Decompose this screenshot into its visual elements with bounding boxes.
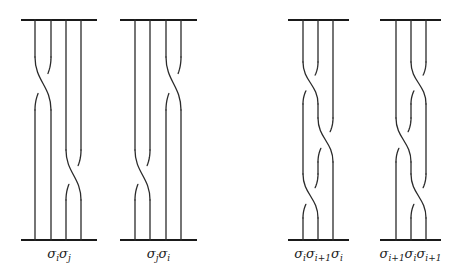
- sigma-symbol: σ: [405, 246, 414, 261]
- braid-label-sigma-j-sigma-i: σjσi: [147, 246, 170, 263]
- over-strand: [166, 57, 181, 110]
- sigma-symbol: σ: [331, 246, 340, 261]
- sigma-symbol: σ: [380, 246, 389, 261]
- under-strand-lower: [303, 91, 306, 104]
- over-strand: [135, 150, 150, 200]
- over-strand: [66, 150, 81, 200]
- under-strand-lower: [66, 184, 69, 200]
- under-strand-lower: [318, 148, 321, 162]
- braid-diagram-sigma-j-sigma-i: [120, 20, 197, 240]
- braid-label-sigma-i-sigma-j: σiσj: [47, 246, 70, 263]
- under-strand-upper: [330, 118, 333, 132]
- over-strand: [318, 118, 333, 162]
- braid-label-sigma-i-sigma-i1-sigma-i: σiσi+1σi: [294, 246, 343, 263]
- subscript: i+1: [315, 253, 331, 263]
- over-strand: [303, 174, 318, 218]
- braid-label-sigma-i1-sigma-i-sigma-i1: σi+1σiσi+1: [380, 246, 442, 263]
- under-strand-upper: [315, 174, 318, 188]
- sigma-symbol: σ: [158, 246, 167, 261]
- under-strand-lower: [411, 91, 414, 104]
- under-strand-upper: [78, 150, 81, 166]
- braid-diagram-sigma-i-sigma-i1-sigma-i: [288, 20, 349, 240]
- subscript: i: [340, 253, 343, 263]
- over-strand: [411, 174, 426, 218]
- braid-figure: [0, 0, 459, 267]
- sigma-symbol: σ: [416, 246, 425, 261]
- over-strand: [411, 62, 426, 104]
- sigma-symbol: σ: [306, 246, 315, 261]
- braid-diagram-sigma-i1-sigma-i-sigma-i1: [380, 20, 441, 240]
- under-strand-upper: [315, 62, 318, 75]
- subscript: i: [167, 253, 170, 263]
- under-strand-lower: [166, 94, 169, 110]
- sigma-symbol: σ: [59, 246, 68, 261]
- under-strand-lower: [396, 148, 399, 162]
- under-strand-lower: [303, 204, 306, 218]
- braid-diagram-sigma-i-sigma-j: [21, 20, 97, 240]
- under-strand-lower: [135, 184, 138, 200]
- subscript: j: [68, 253, 71, 263]
- under-strand-upper: [147, 150, 150, 166]
- sigma-symbol: σ: [294, 246, 303, 261]
- over-strand: [35, 57, 51, 110]
- over-strand: [396, 118, 411, 162]
- under-strand-upper: [48, 57, 51, 73]
- under-strand-upper: [178, 57, 181, 73]
- under-strand-upper: [423, 174, 426, 188]
- sigma-symbol: σ: [147, 246, 156, 261]
- subscript: i+1: [388, 253, 404, 263]
- under-strand-lower: [411, 204, 414, 218]
- sigma-symbol: σ: [47, 246, 56, 261]
- over-strand: [303, 62, 318, 104]
- under-strand-lower: [35, 94, 38, 110]
- under-strand-upper: [408, 118, 411, 132]
- subscript: i+1: [425, 253, 441, 263]
- under-strand-upper: [423, 62, 426, 75]
